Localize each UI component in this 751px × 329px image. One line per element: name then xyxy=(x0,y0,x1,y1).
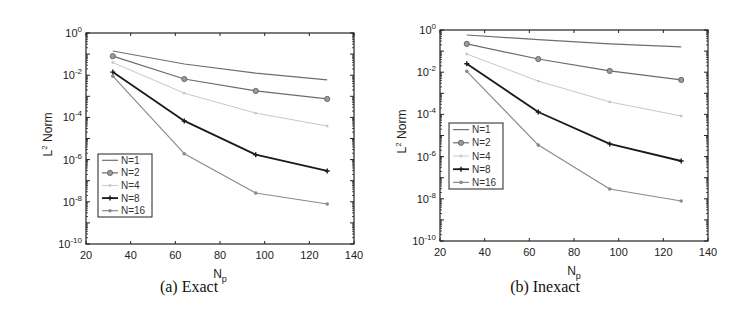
series-n-2 xyxy=(464,41,684,82)
star-marker xyxy=(679,199,683,203)
circle-marker xyxy=(607,68,612,73)
y-tick-label: 10-2 xyxy=(417,64,437,78)
y-tick-label: 10-10 xyxy=(58,236,82,250)
y-tick-label: 10-2 xyxy=(63,67,83,81)
legend-label: N=8 xyxy=(472,164,491,175)
circle-marker xyxy=(253,88,258,93)
dot-marker xyxy=(460,155,463,158)
circle-marker xyxy=(107,170,112,175)
star-marker xyxy=(111,74,115,78)
plus-marker xyxy=(607,141,612,146)
series-n-1 xyxy=(113,51,327,80)
x-tick-label: 120 xyxy=(654,246,672,258)
x-tick-label: 40 xyxy=(125,249,137,261)
x-tick-label: 140 xyxy=(345,249,363,261)
y-tick-label: 10-6 xyxy=(417,149,437,163)
x-tick-label: 60 xyxy=(523,246,535,258)
y-tick-label: 10-10 xyxy=(412,233,436,247)
star-marker xyxy=(465,70,469,74)
x-tick-label: 100 xyxy=(255,249,273,261)
y-tick-label: 10-4 xyxy=(63,109,83,123)
star-marker xyxy=(182,152,186,156)
x-tick-label: 20 xyxy=(80,249,92,261)
star-marker xyxy=(459,181,463,185)
caption-inexact: (b) Inexact xyxy=(445,278,645,296)
y-axis-label: L2 Norm xyxy=(40,113,55,157)
x-tick-label: 120 xyxy=(300,249,318,261)
legend-label: N=16 xyxy=(472,177,497,188)
plus-marker xyxy=(325,168,330,173)
y-tick-label: 100 xyxy=(65,25,82,39)
star-marker xyxy=(608,187,612,191)
x-tick-label: 80 xyxy=(568,246,580,258)
dot-marker xyxy=(326,125,329,128)
dot-marker xyxy=(183,92,186,95)
x-tick-label: 140 xyxy=(699,246,717,258)
series-line xyxy=(467,44,681,80)
circle-marker xyxy=(325,96,330,101)
star-marker xyxy=(254,191,258,195)
circle-marker xyxy=(679,77,684,82)
series-line xyxy=(113,51,327,80)
y-tick-label: 10-8 xyxy=(417,191,437,205)
circle-marker xyxy=(536,56,541,61)
dot-marker xyxy=(680,115,683,118)
y-tick-label: 10-8 xyxy=(63,194,83,208)
legend: N=1N=2N=4N=8N=16 xyxy=(98,154,152,217)
series-n-1 xyxy=(467,35,681,47)
plus-marker xyxy=(679,158,684,163)
legend-label: N=1 xyxy=(121,155,140,166)
dot-marker xyxy=(109,184,112,187)
dot-marker xyxy=(254,112,257,115)
legend-label: N=8 xyxy=(121,193,140,204)
circle-marker xyxy=(110,54,115,59)
series-line xyxy=(467,35,681,47)
x-tick-label: 80 xyxy=(214,249,226,261)
x-tick-label: 20 xyxy=(434,246,446,258)
legend: N=1N=2N=4N=8N=16 xyxy=(449,123,503,189)
circle-marker xyxy=(458,140,463,145)
legend-label: N=1 xyxy=(472,124,491,135)
caption-exact: (a) Exact xyxy=(89,278,289,296)
y-axis-label: L2 Norm xyxy=(394,110,409,154)
x-tick-label: 100 xyxy=(609,246,627,258)
star-marker xyxy=(325,202,329,206)
star-marker xyxy=(536,143,540,147)
circle-marker xyxy=(464,41,469,46)
y-tick-label: 10-6 xyxy=(63,152,83,166)
x-tick-label: 60 xyxy=(169,249,181,261)
x-tick-label: 40 xyxy=(479,246,491,258)
star-marker xyxy=(108,209,112,213)
legend-label: N=2 xyxy=(472,137,491,148)
dot-marker xyxy=(537,80,540,83)
figure-panel-b: 2040608010012014010-1010-810-610-410-210… xyxy=(375,0,750,329)
y-tick-label: 100 xyxy=(419,22,436,36)
legend-label: N=4 xyxy=(121,180,140,191)
dot-marker xyxy=(111,61,114,64)
circle-marker xyxy=(182,76,187,81)
legend-label: N=4 xyxy=(472,151,491,162)
figure-panel-a: 2040608010012014010-1010-810-610-410-210… xyxy=(0,0,375,329)
series-line xyxy=(113,56,327,99)
y-tick-label: 10-4 xyxy=(417,106,437,120)
legend-label: N=2 xyxy=(121,167,140,178)
dot-marker xyxy=(608,101,611,104)
dot-marker xyxy=(465,53,468,56)
legend-label: N=16 xyxy=(121,205,146,216)
